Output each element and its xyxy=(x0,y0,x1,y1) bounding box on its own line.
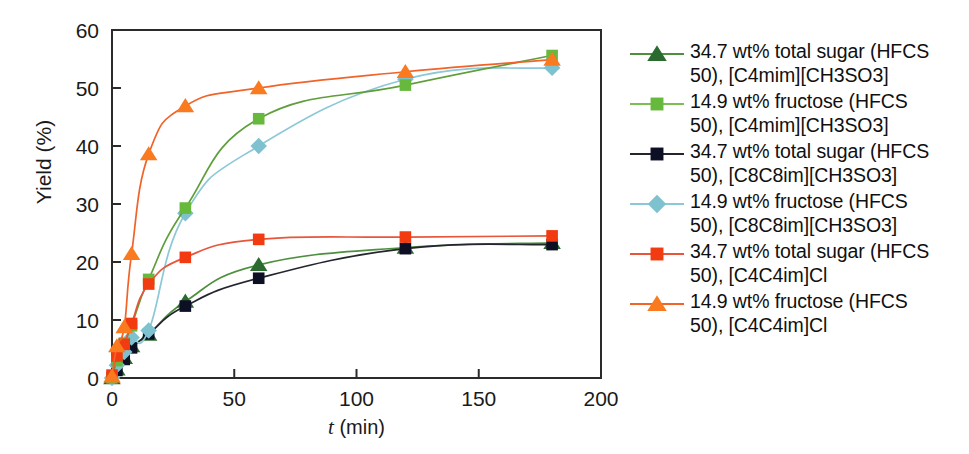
legend-item[interactable]: 14.9 wt% fructose (HFCS 50), [C4mim][CH3… xyxy=(628,90,969,137)
legend-label: 34.7 wt% total sugar (HFCS 50), [C8C8im]… xyxy=(690,140,929,187)
legend: 34.7 wt% total sugar (HFCS 50), [C4mim][… xyxy=(628,40,969,340)
data-point xyxy=(400,231,412,243)
data-point xyxy=(400,243,412,255)
legend-marker-square-icon xyxy=(628,91,690,117)
legend-marker-triangle-icon xyxy=(628,41,690,67)
series-6 xyxy=(103,52,561,383)
x-tick-label: 0 xyxy=(106,387,118,410)
data-point xyxy=(250,138,267,155)
y-tick-label: 0 xyxy=(87,367,99,390)
legend-label: 14.9 wt% fructose (HFCS 50), [C4C4im]Cl xyxy=(690,290,908,337)
legend-marker-diamond-icon xyxy=(628,191,690,217)
data-point xyxy=(253,272,265,284)
series-4 xyxy=(104,59,561,386)
series-1 xyxy=(103,235,561,384)
plot-area: 0102030405060050100150200 Yield (%) t (m… xyxy=(0,0,640,454)
series-3 xyxy=(106,239,558,384)
y-tick-label: 50 xyxy=(76,77,99,100)
x-tick-label: 50 xyxy=(223,387,246,410)
legend-item[interactable]: 14.9 wt% fructose (HFCS 50), [C4C4im]Cl xyxy=(628,290,969,337)
y-tick-label: 30 xyxy=(76,193,99,216)
data-point xyxy=(180,252,192,264)
data-point xyxy=(143,278,155,290)
data-point xyxy=(253,234,265,246)
y-tick-label: 60 xyxy=(76,19,99,42)
data-point xyxy=(400,79,412,91)
data-point xyxy=(180,300,192,312)
legend-label: 14.9 wt% fructose (HFCS 50), [C4mim][CH3… xyxy=(690,90,908,137)
x-tick-label: 150 xyxy=(461,387,496,410)
legend-label: 14.9 wt% fructose (HFCS 50), [C8C8im][CH… xyxy=(690,190,908,237)
data-point xyxy=(543,52,561,66)
series-layer xyxy=(103,50,561,387)
x-tick-label: 100 xyxy=(339,387,374,410)
legend-marker-square-icon xyxy=(628,141,690,167)
chart-svg: 0102030405060050100150200 xyxy=(0,0,640,454)
series-2 xyxy=(106,50,558,384)
legend-marker-square-icon xyxy=(628,241,690,267)
legend-item[interactable]: 34.7 wt% total sugar (HFCS 50), [C4C4im]… xyxy=(628,240,969,287)
legend-label: 34.7 wt% total sugar (HFCS 50), [C4C4im]… xyxy=(690,240,929,287)
legend-item[interactable]: 14.9 wt% fructose (HFCS 50), [C8C8im][CH… xyxy=(628,190,969,237)
legend-item[interactable]: 34.7 wt% total sugar (HFCS 50), [C4mim][… xyxy=(628,40,969,87)
y-axis-label: Yield (%) xyxy=(32,82,56,242)
data-point xyxy=(177,98,195,112)
data-point xyxy=(123,246,141,260)
legend-item[interactable]: 34.7 wt% total sugar (HFCS 50), [C8C8im]… xyxy=(628,140,969,187)
y-tick-label: 40 xyxy=(76,135,99,158)
y-tick-label: 20 xyxy=(76,251,99,274)
legend-marker-triangle-icon xyxy=(628,291,690,317)
data-point xyxy=(140,146,158,160)
x-tick-label: 200 xyxy=(583,387,618,410)
y-tick-label: 10 xyxy=(76,309,99,332)
x-axis-label-unit: (min) xyxy=(334,416,385,438)
data-point xyxy=(180,202,192,214)
x-axis-label: t (min) xyxy=(112,415,601,440)
legend-label: 34.7 wt% total sugar (HFCS 50), [C4mim][… xyxy=(690,40,929,87)
data-point xyxy=(546,230,558,242)
chart-page: 0102030405060050100150200 Yield (%) t (m… xyxy=(0,0,969,454)
data-point xyxy=(253,113,265,125)
